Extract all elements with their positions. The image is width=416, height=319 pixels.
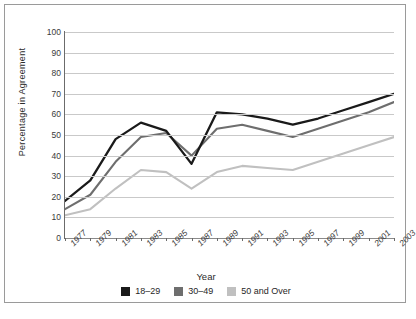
legend-label: 18–29 [135, 286, 160, 296]
gridline-20 [65, 197, 394, 198]
legend-swatch-icon [174, 287, 183, 296]
legend-swatch-icon [121, 287, 130, 296]
gridline-30 [65, 176, 394, 177]
x-tick-mark-1999 [343, 238, 344, 241]
x-tick-2003: 2003 [397, 228, 416, 248]
legend-item[interactable]: 50 and Over [227, 286, 291, 296]
legend-label: 30–49 [188, 286, 213, 296]
legend-item[interactable]: 30–49 [174, 286, 213, 296]
legend-item[interactable]: 18–29 [121, 286, 160, 296]
gridline-80 [65, 73, 394, 74]
x-axis-tick-labels: 1977197919811983198519871989199119931995… [65, 241, 394, 271]
gridline-40 [65, 156, 394, 157]
y-tick-90: 90 [35, 49, 61, 57]
figure-frame: Percentage in Agreement 0102030405060708… [4, 4, 406, 303]
x-tick-mark-1997 [318, 238, 319, 241]
y-tick-20: 20 [35, 193, 61, 201]
x-tick-mark-1983 [141, 238, 142, 241]
y-tick-0: 0 [35, 234, 61, 242]
x-tick-mark-1977 [65, 238, 66, 241]
y-axis-title: Percentage in Agreement [17, 22, 27, 182]
x-tick-mark-1979 [90, 238, 91, 241]
x-tick-mark-1987 [192, 238, 193, 241]
gridline-60 [65, 114, 394, 115]
y-tick-50: 50 [35, 131, 61, 139]
x-tick-mark-1989 [217, 238, 218, 241]
y-tick-100: 100 [35, 28, 61, 36]
gridline-90 [65, 53, 394, 54]
chart-canvas: Percentage in Agreement 0102030405060708… [5, 5, 407, 304]
y-tick-10: 10 [35, 213, 61, 221]
x-axis-title: Year [5, 271, 407, 282]
chart-legend: 18–2930–4950 and Over [5, 286, 407, 296]
y-tick-60: 60 [35, 110, 61, 118]
series-line-18-29 [65, 94, 394, 201]
x-tick-mark-1995 [293, 238, 294, 241]
gridline-10 [65, 217, 394, 218]
x-tick-mark-1981 [116, 238, 117, 241]
legend-swatch-icon [227, 287, 236, 296]
x-tick-mark-1993 [267, 238, 268, 241]
figure-caption [6, 311, 410, 319]
legend-label: 50 and Over [241, 286, 291, 296]
x-tick-mark-2003 [394, 238, 395, 241]
x-tick-mark-2001 [369, 238, 370, 241]
gridline-70 [65, 94, 394, 95]
x-tick-mark-1985 [166, 238, 167, 241]
gridline-50 [65, 135, 394, 136]
y-tick-30: 30 [35, 172, 61, 180]
y-axis-tick-labels: 0102030405060708090100 [31, 32, 61, 238]
y-tick-80: 80 [35, 69, 61, 77]
y-tick-70: 70 [35, 90, 61, 98]
gridline-100 [65, 32, 394, 33]
plot-grid [65, 32, 394, 238]
x-tick-mark-1991 [242, 238, 243, 241]
y-tick-40: 40 [35, 152, 61, 160]
